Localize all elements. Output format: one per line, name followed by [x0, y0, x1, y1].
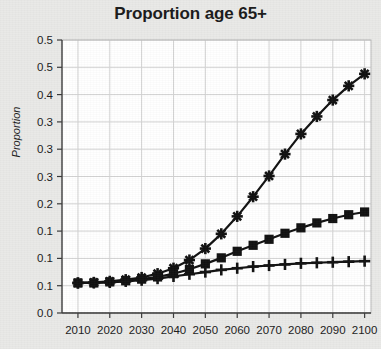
svg-text:2060: 2060 [224, 324, 250, 336]
svg-text:2040: 2040 [161, 324, 187, 336]
svg-text:2010: 2010 [65, 324, 91, 336]
svg-text:2030: 2030 [129, 324, 155, 336]
svg-text:2100: 2100 [352, 324, 378, 336]
svg-text:0.5: 0.5 [37, 34, 53, 46]
svg-text:0.1: 0.1 [37, 252, 53, 264]
svg-text:0.1: 0.1 [37, 280, 53, 292]
svg-text:2080: 2080 [288, 324, 314, 336]
svg-text:0.3: 0.3 [37, 116, 53, 128]
svg-text:2070: 2070 [256, 324, 282, 336]
svg-text:2090: 2090 [320, 324, 346, 336]
gridlines [62, 40, 371, 313]
svg-text:0.1: 0.1 [37, 225, 53, 237]
svg-text:0.4: 0.4 [37, 89, 54, 101]
svg-text:0.3: 0.3 [37, 143, 53, 155]
svg-text:0.2: 0.2 [37, 198, 53, 210]
y-axis-ticks: 0.00.10.10.10.20.30.30.30.40.50.5 [37, 34, 62, 319]
svg-text:0.5: 0.5 [37, 61, 53, 73]
plot-area: 0.00.10.10.10.20.30.30.30.40.50.5 201020… [0, 0, 381, 349]
chart-figure: Proportion age 65+ Proportion 0.00.10.10… [0, 0, 381, 349]
x-axis-ticks: 2010202020302040205020602070208020902100 [65, 313, 377, 336]
svg-text:0.3: 0.3 [37, 171, 53, 183]
svg-text:0.0: 0.0 [37, 307, 53, 319]
svg-text:2050: 2050 [193, 324, 219, 336]
svg-text:2020: 2020 [97, 324, 123, 336]
